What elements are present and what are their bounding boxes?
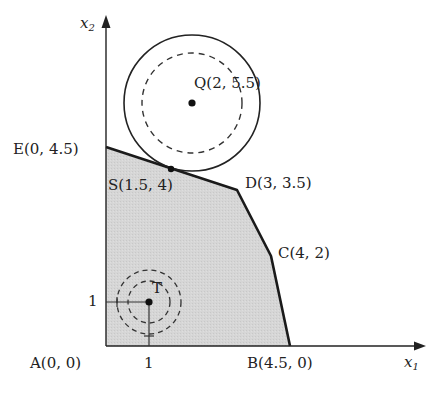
- feasible-region-diagram: [0, 0, 440, 398]
- x-tick-label: 1: [144, 356, 154, 371]
- label-a: A(0, 0): [30, 356, 81, 371]
- label-b: B(4.5, 0): [247, 356, 313, 371]
- y-axis-label: x2: [80, 16, 95, 33]
- point-q: [188, 99, 195, 106]
- x-axis-label: x1: [404, 355, 419, 372]
- point-t: [145, 298, 152, 305]
- label-d: D(3, 3.5): [245, 176, 312, 191]
- y-tick-label: 1: [88, 294, 98, 309]
- x-axis-arrow-icon: [414, 342, 426, 351]
- label-q: Q(2, 5.5): [194, 76, 261, 91]
- label-s: S(1.5, 4): [108, 178, 173, 193]
- label-t: T: [152, 281, 162, 296]
- label-c: C(4, 2): [278, 246, 330, 261]
- y-axis-arrow-icon: [102, 15, 111, 28]
- point-s: [168, 166, 174, 172]
- label-e: E(0, 4.5): [13, 142, 79, 157]
